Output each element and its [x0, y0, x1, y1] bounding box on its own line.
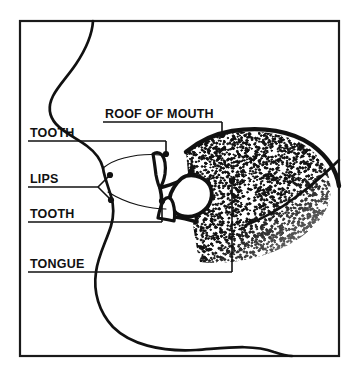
callout-pointer-dot-tooth-lower-0: [159, 198, 165, 204]
callout-label-lips: LIPS: [30, 172, 59, 186]
callout-label-tongue: TONGUE: [30, 257, 84, 271]
callout-label-tooth-upper: TOOTH: [30, 126, 75, 140]
diagram-canvas: ROOF OF MOUTHTOOTHLIPSTOOTHTONGUE: [0, 0, 357, 376]
callout-label-roof-of-mouth: ROOF OF MOUTH: [105, 107, 214, 121]
callout-pointer-dot-lips-0: [107, 172, 113, 178]
callout-pointer-dot-lips-1: [108, 197, 114, 203]
callout-label-tooth-lower: TOOTH: [30, 207, 75, 221]
callout-pointer-dot-roof-of-mouth-0: [219, 132, 225, 138]
callout-pointer-dot-tooth-upper-0: [163, 151, 169, 157]
callout-pointer-dot-tongue-0: [229, 178, 235, 184]
mouth-cross-section-figure: ROOF OF MOUTHTOOTHLIPSTOOTHTONGUE: [0, 0, 357, 376]
